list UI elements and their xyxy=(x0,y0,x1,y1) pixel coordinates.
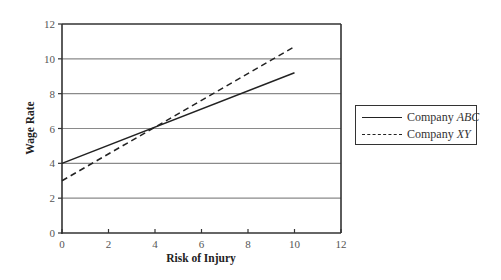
y-tick-label: 2 xyxy=(50,192,56,204)
y-tick-label: 10 xyxy=(44,53,56,65)
y-tick-label: 6 xyxy=(50,123,56,135)
y-tick-label: 0 xyxy=(50,227,56,239)
x-tick-label: 8 xyxy=(245,238,251,250)
solid-line-swatch-icon xyxy=(362,117,402,118)
y-axis-title: Wage Rate xyxy=(24,101,37,154)
dashed-line-swatch-icon xyxy=(362,134,402,135)
x-tick-label: 4 xyxy=(152,238,158,250)
x-axis-title: Risk of Injury xyxy=(166,252,236,265)
legend-item-xy: Company XY xyxy=(362,126,471,142)
x-tick-label: 0 xyxy=(59,238,65,250)
series-lines xyxy=(62,47,295,181)
x-tick-label: 2 xyxy=(106,238,112,250)
y-tick-label: 4 xyxy=(50,157,56,169)
y-tick-label: 8 xyxy=(50,88,56,100)
legend-item-abc: Company ABC xyxy=(362,109,479,125)
legend-label-xy: Company XY xyxy=(407,127,471,142)
x-axis-ticks: 024681012 xyxy=(59,229,346,250)
legend-label-abc: Company ABC xyxy=(407,110,479,125)
series-line-company-xy xyxy=(62,47,295,181)
series-line-company-abc xyxy=(62,73,295,164)
x-tick-label: 10 xyxy=(289,238,301,250)
y-axis-ticks: 024681012 xyxy=(44,18,62,239)
legend: Company ABC Company XY xyxy=(355,105,477,145)
x-tick-label: 6 xyxy=(199,238,205,250)
x-tick-label: 12 xyxy=(336,238,347,250)
gridlines xyxy=(62,59,341,198)
y-tick-label: 12 xyxy=(44,18,55,30)
